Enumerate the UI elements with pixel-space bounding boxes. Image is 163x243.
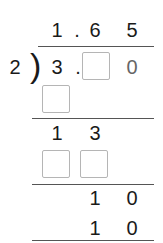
step2-blank-box-2[interactable] — [80, 150, 108, 178]
step1-blank-box[interactable] — [42, 85, 70, 113]
step3-digit-2: 0 — [124, 218, 140, 238]
division-bracket: ) — [30, 48, 41, 82]
subtraction-line-3 — [32, 240, 154, 241]
remainder1-digit-2: 3 — [87, 123, 103, 143]
quotient-digit-2: 6 — [87, 20, 103, 40]
quotient-digit-3: 5 — [124, 20, 140, 40]
dividend-digit-1: 3 — [49, 57, 65, 77]
remainder1-digit-1: 1 — [49, 123, 65, 143]
step3-digit-1: 1 — [87, 218, 103, 238]
quotient-digit-1: 1 — [49, 20, 65, 40]
subtraction-line-2 — [32, 184, 154, 185]
step2-blank-box-1[interactable] — [42, 150, 70, 178]
division-bar — [38, 46, 154, 47]
remainder2-digit-2: 0 — [124, 188, 140, 208]
divisor: 2 — [7, 57, 23, 77]
subtraction-line-1 — [32, 118, 154, 119]
remainder2-digit-1: 1 — [87, 188, 103, 208]
dividend-digit-3: 0 — [124, 57, 140, 77]
quotient-decimal-point: . — [69, 20, 85, 40]
dividend-blank-box[interactable] — [82, 52, 110, 80]
